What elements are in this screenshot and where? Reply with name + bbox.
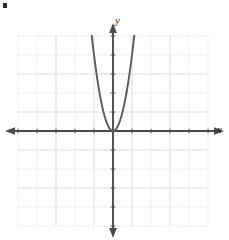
y-axis-label: y <box>115 15 120 26</box>
x-axis-label: x <box>217 124 222 135</box>
graph-figure <box>0 0 229 240</box>
x-axis-arrow-left <box>5 127 15 135</box>
y-axis-arrow-down <box>109 228 117 238</box>
